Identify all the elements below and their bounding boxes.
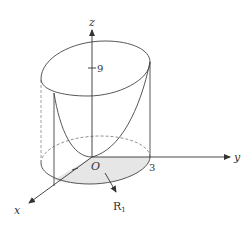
z-tick-label-9: 9 — [97, 63, 103, 74]
region-label: R1 — [113, 200, 126, 214]
origin-label: O — [91, 160, 100, 173]
paraboloid-curve-right — [92, 62, 150, 157]
y-axis-label: y — [233, 151, 241, 164]
diagram-canvas: z y x O 9 3 R1 — [0, 0, 252, 227]
y-tick-label-3: 3 — [149, 162, 155, 173]
solid-figure: z y x O 9 3 R1 — [0, 0, 252, 227]
x-axis-label: x — [14, 204, 21, 217]
region-r1-shading — [54, 157, 150, 184]
top-ellipse — [41, 41, 150, 96]
paraboloid-curve-left — [54, 93, 92, 157]
z-axis-label: z — [88, 16, 95, 29]
